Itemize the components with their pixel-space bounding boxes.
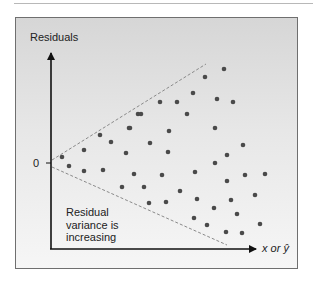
data-point xyxy=(215,97,220,102)
data-point xyxy=(67,164,72,169)
data-point xyxy=(128,126,133,131)
data-point xyxy=(120,185,125,190)
data-point xyxy=(258,222,263,227)
upper-envelope xyxy=(52,64,206,160)
data-point xyxy=(195,197,200,202)
data-point xyxy=(178,189,183,194)
data-point xyxy=(166,150,171,155)
data-point xyxy=(222,67,227,72)
data-point xyxy=(213,126,218,131)
data-point xyxy=(109,140,114,145)
data-point xyxy=(224,230,229,235)
data-point xyxy=(203,75,208,80)
data-point xyxy=(139,112,144,117)
data-point xyxy=(175,100,180,105)
y-axis-label: Residuals xyxy=(30,31,78,44)
data-point xyxy=(212,206,217,211)
data-point xyxy=(225,179,230,184)
data-point xyxy=(193,170,198,175)
data-point xyxy=(101,168,106,173)
data-point xyxy=(235,212,240,217)
annotation-line-3: increasing xyxy=(66,231,116,244)
data-point xyxy=(240,231,245,236)
data-point xyxy=(148,141,153,146)
data-point xyxy=(142,185,147,190)
data-point xyxy=(243,173,248,178)
data-point xyxy=(192,216,197,221)
data-point xyxy=(60,155,65,160)
data-point xyxy=(158,100,163,105)
data-point xyxy=(213,161,218,166)
data-point xyxy=(82,148,87,153)
data-point xyxy=(229,198,234,203)
data-point xyxy=(147,201,152,206)
annotation-line-1: Residual xyxy=(66,206,109,219)
zero-label: 0 xyxy=(33,157,39,170)
data-point xyxy=(164,200,169,205)
x-axis-label: x or ŷ xyxy=(262,242,289,255)
data-point xyxy=(185,112,190,117)
data-point xyxy=(82,169,87,174)
data-point xyxy=(98,133,103,138)
data-point xyxy=(205,223,210,228)
data-point xyxy=(231,100,236,105)
data-point xyxy=(132,172,137,177)
data-point xyxy=(191,91,196,96)
data-point xyxy=(160,173,165,178)
data-point xyxy=(263,172,268,177)
data-point xyxy=(253,193,258,198)
data-point xyxy=(225,153,230,158)
data-point xyxy=(124,151,129,156)
data-point xyxy=(167,129,172,134)
data-point xyxy=(241,143,246,148)
annotation-line-2: variance is xyxy=(66,219,119,232)
